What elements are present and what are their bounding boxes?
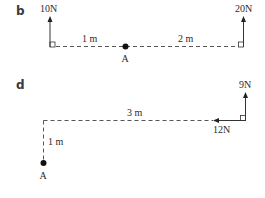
force-label-10n: 10N — [40, 3, 57, 14]
force-arrow-9n — [241, 92, 249, 121]
force-diagram: b 10N 1 m 2 m A 20N d 9N — [0, 0, 265, 198]
force-arrow-10n — [48, 16, 56, 47]
panel-label-b: b — [16, 4, 25, 18]
panel-label-d: d — [16, 78, 25, 92]
arrowhead-icon — [213, 118, 219, 123]
distance-label-3m: 3 m — [127, 107, 143, 118]
distance-label-1m-vertical: 1 m — [48, 136, 64, 147]
distance-label-2m: 2 m — [178, 33, 194, 44]
distance-label-1m: 1 m — [82, 33, 98, 44]
arrowhead-icon — [243, 92, 248, 98]
arrowhead-icon — [241, 16, 246, 22]
force-arrow-20n — [239, 16, 247, 47]
point-label-a: A — [122, 53, 130, 64]
panel-b: b 10N 1 m 2 m A 20N — [16, 3, 252, 64]
right-angle-marker-icon — [241, 116, 246, 121]
force-label-9n: 9N — [239, 79, 251, 90]
force-label-20n: 20N — [235, 3, 252, 14]
pivot-point-icon — [41, 160, 47, 166]
right-angle-marker-icon — [239, 42, 244, 47]
pivot-point-icon — [123, 44, 129, 50]
force-label-12n: 12N — [213, 124, 230, 135]
point-label-a: A — [40, 170, 48, 181]
right-angle-marker-icon — [50, 42, 55, 47]
panel-d: d 9N 12N 3 m 1 m A — [16, 78, 251, 181]
arrowhead-icon — [48, 16, 53, 22]
